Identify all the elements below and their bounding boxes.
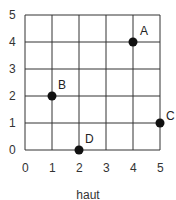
x-tick-1: 1 <box>49 162 56 174</box>
point-label-d: D <box>85 133 94 145</box>
y-tick-5: 5 <box>9 9 16 21</box>
point-label-b: B <box>58 79 66 91</box>
scatter-chart: 5 4 3 2 1 0 0 1 2 3 4 5 A B C D haut <box>0 0 176 200</box>
x-tick-4: 4 <box>130 162 137 174</box>
y-tick-3: 3 <box>9 63 16 75</box>
x-tick-3: 3 <box>103 162 110 174</box>
y-tick-1: 1 <box>9 117 16 129</box>
y-tick-2: 2 <box>9 90 16 102</box>
data-point-c <box>156 119 165 128</box>
x-axis-label: haut <box>0 188 176 200</box>
y-tick-4: 4 <box>9 36 16 48</box>
x-tick-5: 5 <box>157 162 164 174</box>
point-label-a: A <box>140 25 148 37</box>
y-tick-0: 0 <box>9 144 16 156</box>
data-point-a <box>129 38 138 47</box>
point-label-c: C <box>166 110 175 122</box>
data-point-d <box>75 146 84 155</box>
x-tick-0: 0 <box>22 162 29 174</box>
x-tick-2: 2 <box>76 162 83 174</box>
data-point-b <box>48 92 57 101</box>
